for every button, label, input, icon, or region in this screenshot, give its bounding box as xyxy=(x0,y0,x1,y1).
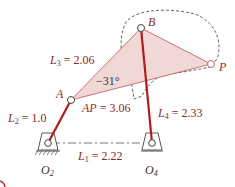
label-o2: O2 xyxy=(41,163,54,178)
coupler-point-p xyxy=(208,61,215,68)
linkage-diagram: A B P O2 O4 L3 = 2.06 −31° AP = 3.06 L2 … xyxy=(0,0,235,187)
label-l1: L1 = 2.22 xyxy=(77,149,122,164)
corner-mark xyxy=(0,181,5,187)
joint-b xyxy=(138,25,145,32)
label-p: P xyxy=(218,60,227,74)
link-l2-crank xyxy=(48,100,71,143)
label-angle: −31° xyxy=(96,74,120,88)
label-o4: O4 xyxy=(145,163,158,178)
joint-o4 xyxy=(149,140,156,147)
label-l4: L4 = 2.33 xyxy=(157,106,202,121)
label-ap: AP = 3.06 xyxy=(81,101,130,115)
label-l2: L2 = 1.0 xyxy=(7,111,46,126)
label-a: A xyxy=(55,87,64,101)
joint-o2 xyxy=(45,140,52,147)
joint-a xyxy=(68,97,75,104)
label-l3: L3 = 2.06 xyxy=(49,53,94,68)
label-b: B xyxy=(148,15,156,29)
